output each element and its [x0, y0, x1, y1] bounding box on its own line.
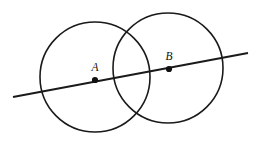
point-a-dot [92, 77, 98, 83]
point-b-label: B [165, 50, 172, 62]
secant-line [13, 53, 248, 97]
point-a-label: A [90, 61, 99, 73]
point-b-dot [166, 66, 172, 72]
geometry-figure: A B [0, 0, 261, 146]
figure-canvas: A B [0, 0, 261, 146]
